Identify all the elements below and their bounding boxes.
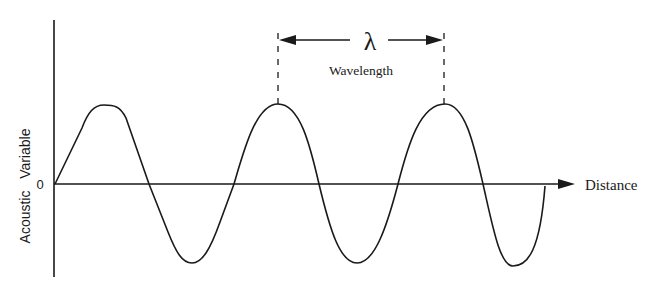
wavelength-symbol: λ [364, 27, 377, 56]
x-axis-arrowhead-icon [558, 179, 575, 189]
origin-label: 0 [36, 177, 43, 192]
arrow-left-icon [279, 35, 296, 45]
x-axis-label: Distance [585, 177, 638, 193]
arrow-right-icon [426, 35, 443, 45]
wavelength-label: Wavelength [329, 63, 393, 78]
wave-curve [55, 104, 545, 266]
wave-diagram: λ Wavelength 0 Distance Acoustic Variabl… [0, 0, 654, 285]
y-axis-label: Acoustic Variable [17, 128, 33, 243]
